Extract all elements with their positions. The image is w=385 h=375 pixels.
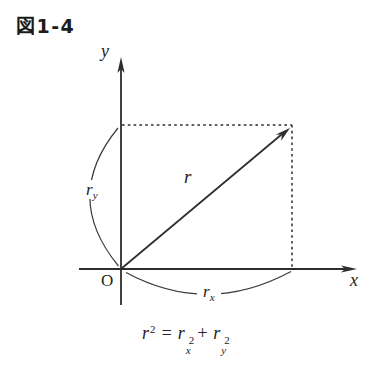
formula-term2-scripts: 2y (221, 335, 227, 356)
figure-title: 図1-4 (16, 11, 75, 38)
ry-base: r (86, 180, 93, 199)
vector-r-label: r (184, 167, 191, 186)
vector-r-line (122, 135, 282, 269)
diagram-canvas (0, 0, 385, 375)
formula-lhs-base: r (142, 323, 149, 343)
formula-term1-exponent: 2 (189, 335, 195, 345)
formula-lhs-exponent: 2 (150, 323, 156, 335)
formula-term1-base: r (178, 323, 185, 343)
formula-term1-scripts: 2x (186, 335, 192, 356)
x-axis-label: x (350, 271, 358, 289)
pythagorean-formula: r2=r2x+r2y (142, 321, 227, 356)
rx-base: r (203, 282, 210, 301)
ry-subscript: y (93, 189, 98, 201)
formula-term2-subscript: y (221, 345, 227, 355)
formula-term2-exponent: 2 (224, 335, 230, 345)
formula-equals-sign: = (161, 323, 173, 343)
formula-term1-subscript: x (186, 345, 192, 355)
ry-component-label: ry (84, 180, 100, 199)
origin-label: O (101, 272, 113, 289)
figure-1-4: 図1-4 y x O r ry rx r2=r2x+r2y (0, 0, 385, 375)
rx-component-label: rx (197, 282, 221, 301)
rx-subscript: x (210, 291, 215, 303)
formula-plus-sign: + (196, 323, 208, 343)
formula-term2-base: r (213, 323, 220, 343)
y-axis-label: y (101, 42, 109, 60)
vector-r-arrowhead (276, 128, 290, 141)
